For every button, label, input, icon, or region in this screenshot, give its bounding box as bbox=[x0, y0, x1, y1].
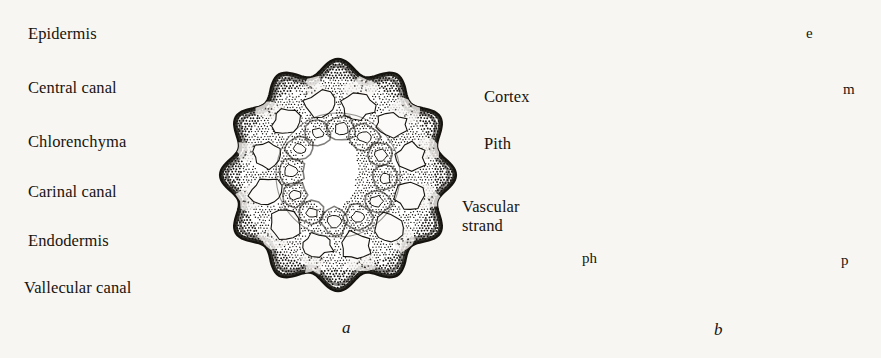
label-epidermis-abbr: e bbox=[806, 25, 813, 42]
caption-panel-a: a bbox=[342, 318, 351, 338]
botanical-figure-illustration bbox=[0, 0, 881, 358]
carinal-canal bbox=[380, 173, 390, 183]
label-epidermis: Epidermis bbox=[28, 24, 97, 43]
figure-canvas bbox=[0, 0, 881, 358]
label-endodermis: Endodermis bbox=[28, 231, 109, 250]
label-metaxylem-abbr: m bbox=[843, 81, 855, 98]
label-vascular-strand: Vascular strand bbox=[462, 197, 520, 235]
label-pith: Pith bbox=[484, 134, 511, 153]
label-protoxylem-abbr: p bbox=[841, 252, 849, 269]
panel-a-drawing bbox=[216, 55, 461, 296]
carinal-canal bbox=[335, 122, 348, 134]
label-vallecular-canal: Vallecular canal bbox=[24, 278, 131, 297]
label-phloem-abbr: ph bbox=[582, 250, 597, 267]
label-chlorenchyma: Chlorenchyma bbox=[28, 132, 126, 151]
label-cortex: Cortex bbox=[484, 87, 530, 106]
label-carinal-canal: Carinal canal bbox=[28, 182, 117, 201]
label-central-canal: Central canal bbox=[28, 78, 117, 97]
caption-panel-b: b bbox=[714, 320, 723, 340]
